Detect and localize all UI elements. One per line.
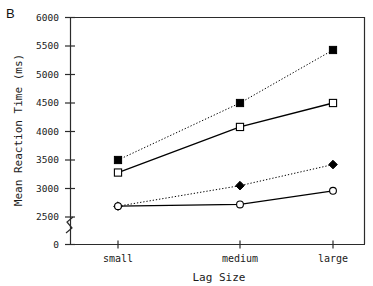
series-markers-group (114, 46, 338, 210)
data-point-marker (237, 201, 244, 208)
series-line (118, 165, 333, 207)
panel-label: B (6, 6, 15, 21)
data-point-marker (236, 123, 243, 130)
y-axis-ticks: 025003000350040004500500055006000 (36, 12, 75, 250)
x-tick-label: medium (222, 253, 258, 264)
x-tick-label: small (103, 253, 133, 264)
data-point-marker (114, 169, 121, 176)
series-line (118, 191, 333, 206)
series-lines-group (118, 50, 333, 206)
series-line (118, 103, 333, 173)
y-axis-title: Mean Reaction Time (ms) (12, 54, 25, 206)
data-point-marker (329, 160, 338, 169)
y-tick-label: 2500 (36, 211, 59, 222)
chart-figure: B Mean Reaction Time (ms) Lag Size 02500… (0, 0, 373, 286)
data-point-marker (329, 46, 336, 53)
y-tick-label: 4000 (36, 126, 59, 137)
data-point-marker (114, 156, 121, 163)
y-tick-label: 5000 (36, 69, 59, 80)
y-tick-label: 3000 (36, 183, 59, 194)
y-tick-label: 0 (53, 239, 59, 250)
y-axis-break-icon (66, 217, 73, 233)
y-tick-label: 5500 (36, 40, 59, 51)
line-chart-plot: Mean Reaction Time (ms) Lag Size 0250030… (0, 0, 373, 286)
data-point-marker (236, 181, 245, 190)
y-tick-label: 3500 (36, 154, 59, 165)
data-point-marker (329, 99, 336, 106)
x-tick-label: large (318, 253, 348, 264)
series-line (118, 50, 333, 160)
x-axis-title: Lag Size (193, 271, 246, 284)
data-point-marker (236, 99, 243, 106)
data-point-marker (330, 187, 337, 194)
data-point-marker (115, 203, 122, 210)
y-tick-label: 4500 (36, 97, 59, 108)
y-tick-label: 6000 (36, 12, 59, 23)
